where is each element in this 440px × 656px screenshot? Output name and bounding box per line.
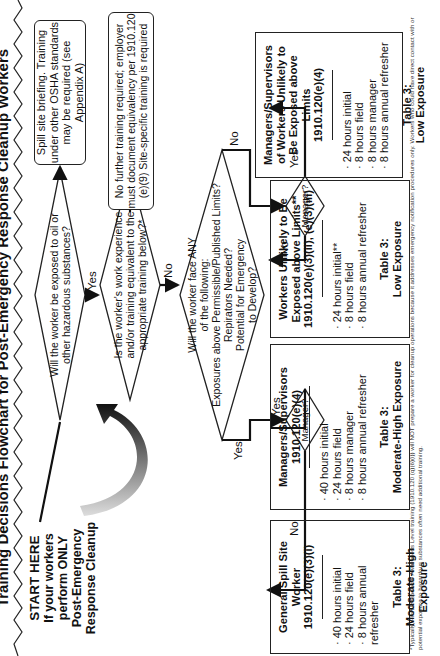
q3-line-3: Exposures above Permissible/Published Li… xyxy=(210,183,222,407)
hours-list: 40 hours initial 24 hours field 8 hours … xyxy=(331,529,381,645)
hours-list: 40 hours initial 24 hours field 8 hours … xyxy=(318,353,368,501)
q3-line-5: Potential for Emergency xyxy=(234,239,246,351)
no-further-training-box: No further training required; employer m… xyxy=(108,12,154,210)
hours-item: 40 hours initial xyxy=(318,353,331,501)
divider xyxy=(322,555,323,619)
hours-item: 8 hours manager xyxy=(343,353,356,501)
flowchart-page: Training Decisions Flowchart for Post-Em… xyxy=(0,0,440,656)
table-ref: Table 3: xyxy=(378,189,391,329)
start-line-2: Post-Emergency xyxy=(70,518,84,638)
footnote: *Typically, First Responder Awareness Le… xyxy=(408,0,424,650)
start-here-block: START HERE If your workers perform ONLY … xyxy=(28,518,98,638)
q3-line-2: of the following: xyxy=(198,259,210,332)
q3-line-6: to Develop? xyxy=(246,267,258,323)
q3-text: Will the worker face ANY of the followin… xyxy=(184,174,260,416)
table-ref: Table 3: xyxy=(378,353,391,501)
box-managers-of-unlikely-exposed: Managers/Supervisors of Workers Unlikely… xyxy=(255,32,403,178)
divider xyxy=(322,221,323,298)
q3-yes-label: Yes xyxy=(232,441,244,460)
spill-briefing-box: Spill site briefing. Training under othe… xyxy=(34,20,86,165)
q3-line-1: Will the worker face ANY xyxy=(186,237,198,353)
hours-item: 24 hours initial** xyxy=(331,189,344,329)
hours-item: 8 hours field xyxy=(343,189,356,329)
box-citation: 1910.120(e)(4) xyxy=(290,353,303,501)
hours-item: 40 hours initial xyxy=(331,529,344,645)
q2-no-label: No xyxy=(162,263,174,278)
box-title: Workers Unlikely to Be Exposed above Lim… xyxy=(277,189,302,329)
start-line-3: Response Cleanup xyxy=(84,518,98,638)
hours-item: 24 hours initial xyxy=(341,41,354,169)
q2-text: Is the worker's work experience and/or t… xyxy=(104,210,156,360)
hours-item: 8 hours annual refresher xyxy=(356,353,369,501)
box-managers-supervisors: Managers/Supervisors 1910.120(e)(4) 40 h… xyxy=(270,344,410,510)
exposure-level: Moderate-High Exposure xyxy=(391,353,404,501)
q3-line-4: Repirators Needed? xyxy=(222,248,234,342)
box-general-spill-worker: General Spill Site Worker 1910.120(e)(3)… xyxy=(270,520,410,654)
hours-item: 24 hours field xyxy=(343,529,356,645)
box-title: Managers/Supervisors xyxy=(277,353,290,501)
box-citation: 1910.120(e)(3)(ii), (e)(3)(iii) xyxy=(302,189,315,329)
divider xyxy=(309,386,310,467)
box-citation: 1910.120(e)(3)(i) xyxy=(302,529,315,645)
table-ref: Table 3: xyxy=(391,529,404,645)
hours-item: 8 hours manager xyxy=(366,41,379,169)
exposure-level: Low Exposure xyxy=(391,189,404,329)
start-line-1: If your workers perform ONLY xyxy=(42,518,70,638)
hours-list: 24 hours initial** 8 hours field 8 hours… xyxy=(331,189,369,329)
q1-yes-label: Yes xyxy=(86,271,98,290)
box-title: Managers/Supervisors of Workers Unlikely… xyxy=(262,41,312,169)
zigzag-divider xyxy=(14,0,22,656)
hours-item: 24 hours field xyxy=(331,353,344,501)
hours-item: 8 hours annual refresher xyxy=(356,529,381,645)
q3-no-label: No xyxy=(228,131,240,146)
curved-arrow-icon xyxy=(80,404,148,516)
hours-item: 8 hours annual refresher xyxy=(378,41,391,169)
box-title: General Spill Site Worker xyxy=(277,529,302,645)
hours-item: 8 hours field xyxy=(353,41,366,169)
start-heading: START HERE xyxy=(28,518,42,638)
box-citation: 1910.120(e)(4) xyxy=(312,41,325,169)
divider xyxy=(332,70,333,140)
q1-text: Will the worker be exposed to oil or oth… xyxy=(38,210,82,380)
hours-item: 8 hours annual refresher xyxy=(356,189,369,329)
box-workers-unlikely-exposed: Workers Unlikely to Be Exposed above Lim… xyxy=(270,180,410,338)
hours-list: 24 hours initial 8 hours field 8 hours m… xyxy=(341,41,391,169)
page-title: Training Decisions Flowchart for Post-Em… xyxy=(0,0,11,656)
